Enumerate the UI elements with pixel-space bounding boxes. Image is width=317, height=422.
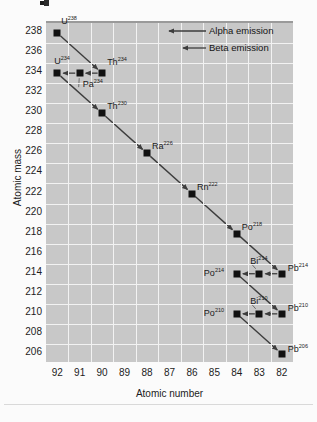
y-tick-232: 232 [0, 86, 42, 96]
nuclide-marker-Pb206 [278, 350, 285, 357]
figure-container: U238U234Pa234Th234Th230Ra226Rn222Po218Po… [0, 0, 317, 422]
y-tick-214: 214 [0, 267, 42, 277]
grid-line-vertical [68, 23, 69, 362]
grid-line-horizontal [46, 284, 293, 285]
nuclide-marker-Pa234 [76, 70, 83, 77]
x-tick-82: 82 [267, 368, 297, 378]
y-tick-206: 206 [0, 347, 42, 357]
grid-line-vertical [271, 23, 272, 362]
legend-item-alpha: Alpha emission [163, 24, 291, 38]
beta-arrow-icon [163, 41, 207, 55]
nuclide-marker-Bi214 [256, 270, 263, 277]
grid-line-vertical [181, 23, 182, 362]
nuclide-marker-Po210 [233, 310, 240, 317]
nuclide-marker-Ra226 [144, 150, 151, 157]
nuclide-label-Po210: Po210 [204, 309, 224, 318]
nuclide-label-Ra226: Ra226 [152, 142, 173, 151]
nuclide-marker-U234 [54, 70, 61, 77]
nuclide-label-U234: U234 [54, 57, 70, 66]
grid-line-horizontal [46, 344, 293, 345]
x-axis-tick-labels: 9291908988878685848382 [46, 368, 293, 382]
alpha-arrow-icon [163, 24, 207, 38]
nuclide-marker-Th234 [99, 70, 106, 77]
grid-line-vertical [136, 23, 137, 362]
y-tick-218: 218 [0, 227, 42, 237]
nuclide-label-Rn222: Rn222 [197, 183, 218, 192]
grid-line-vertical [158, 23, 159, 362]
nuclide-marker-Rn222 [188, 190, 195, 197]
grid-line-vertical [113, 23, 114, 362]
grid-line-horizontal [46, 324, 293, 325]
grid-line-vertical [248, 23, 249, 362]
nuclide-label-Po214: Po214 [204, 269, 224, 278]
artifact-speck-secondary [40, 1, 44, 5]
legend-item-beta: Beta emission [163, 41, 291, 55]
nuclide-label-Pa234: Pa234 [83, 80, 103, 89]
y-tick-236: 236 [0, 46, 42, 56]
legend-label-alpha: Alpha emission [209, 25, 273, 36]
grid-line-horizontal [46, 63, 293, 64]
grid-line-horizontal [46, 183, 293, 184]
nuclide-marker-Th230 [99, 110, 106, 117]
grid-line-horizontal [46, 103, 293, 104]
decay-arrow-alpha [105, 116, 142, 149]
nuclide-label-Po218: Po218 [242, 223, 262, 232]
decay-arrow-alpha [150, 156, 187, 189]
nuclide-label-Pb214: Pb214 [288, 264, 308, 273]
artifact-speck [44, 0, 49, 6]
y-tick-234: 234 [0, 66, 42, 76]
y-tick-212: 212 [0, 287, 42, 297]
nuclide-label-Pb210: Pb210 [288, 304, 308, 313]
y-tick-216: 216 [0, 247, 42, 257]
nuclide-label-Th234: Th234 [107, 58, 127, 67]
x-axis-title: Atomic number [46, 388, 293, 399]
y-tick-210: 210 [0, 307, 42, 317]
legend: Alpha emission Beta emission [163, 24, 291, 58]
decay-arrow-alpha [195, 196, 232, 229]
nuclide-marker-Po218 [233, 230, 240, 237]
nuclide-marker-Pb214 [278, 270, 285, 277]
bottom-divider [4, 404, 313, 405]
grid-line-horizontal [46, 163, 293, 164]
grid-line-horizontal [46, 123, 293, 124]
plot-area: U238U234Pa234Th234Th230Ra226Rn222Po218Po… [46, 21, 293, 362]
nuclide-marker-Po214 [233, 270, 240, 277]
nuclide-label-Bi210: Bi210 [250, 297, 267, 306]
grid-line-vertical [226, 23, 227, 362]
nuclide-label-Bi214: Bi214 [250, 257, 267, 266]
y-tick-230: 230 [0, 106, 42, 116]
nuclide-label-Th230: Th230 [107, 102, 127, 111]
nuclide-label-U238: U238 [61, 17, 77, 26]
y-axis-title: Atomic mass [12, 133, 23, 223]
grid-line-horizontal [46, 244, 293, 245]
nuclide-label-Pb206: Pb206 [288, 345, 308, 354]
decay-arrow-alpha [240, 317, 277, 350]
y-tick-208: 208 [0, 327, 42, 337]
nuclide-marker-Bi210 [256, 310, 263, 317]
y-tick-238: 238 [0, 26, 42, 36]
nuclide-marker-U238 [54, 30, 61, 37]
grid-line-horizontal [46, 204, 293, 205]
nuclide-marker-Pb210 [278, 310, 285, 317]
grid-line-vertical [91, 23, 92, 362]
legend-label-beta: Beta emission [209, 42, 269, 53]
